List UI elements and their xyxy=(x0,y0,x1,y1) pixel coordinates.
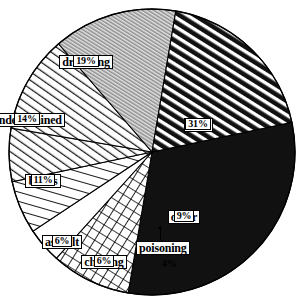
slice-label-choking-pct: 6% xyxy=(94,255,115,267)
slice-label-burns-pct: 11% xyxy=(31,174,56,186)
slice-label-poisoning-name: poisoning xyxy=(136,241,190,255)
slice-label-undetermined-pct: 14% xyxy=(14,113,39,125)
pie-chart: drowning 19% road 31% undetermined 14% b… xyxy=(0,0,308,298)
slice-label-other-pct: 9% xyxy=(174,210,195,222)
slice-label-poisoning-pct: 4% xyxy=(160,259,179,269)
slice-label-drowning-pct: 19% xyxy=(73,55,98,67)
poisoning-pointer-icon xyxy=(160,228,161,240)
slice-label-assault-pct: 6% xyxy=(52,235,73,247)
slice-label-road-pct: 31% xyxy=(185,118,210,130)
